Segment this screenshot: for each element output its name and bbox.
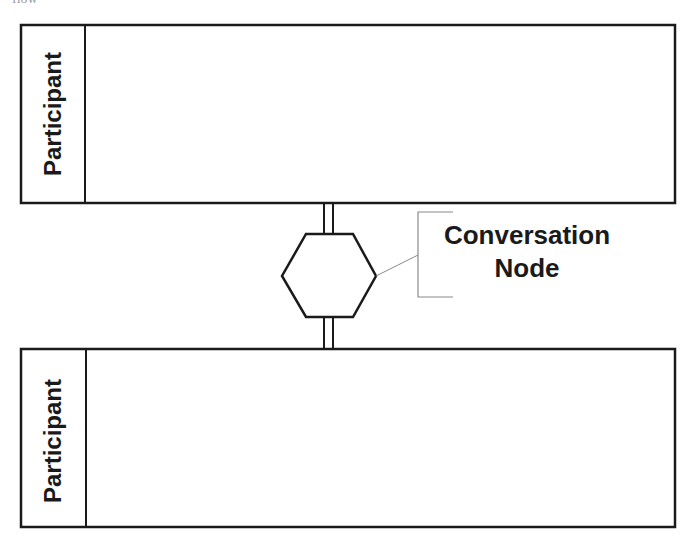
conversation-link-top[interactable] [324, 203, 333, 234]
annotation-connector [376, 255, 418, 276]
annotation-text-line1: Conversation [444, 220, 610, 250]
pool-top-border [21, 25, 675, 203]
conversation-node-hexagon-icon[interactable] [282, 234, 376, 317]
conversation-link-bottom[interactable] [324, 317, 333, 349]
pool-bottom[interactable]: Participant [21, 349, 675, 527]
pool-top-label: Participant [39, 52, 66, 176]
pool-bottom-border [21, 349, 675, 527]
bpmn-conversation-diagram: Participant Participant Conversation Nod… [0, 0, 692, 544]
annotation-text-line2: Node [495, 253, 560, 283]
pool-top[interactable]: Participant [21, 25, 675, 203]
pool-bottom-label: Participant [39, 379, 66, 503]
